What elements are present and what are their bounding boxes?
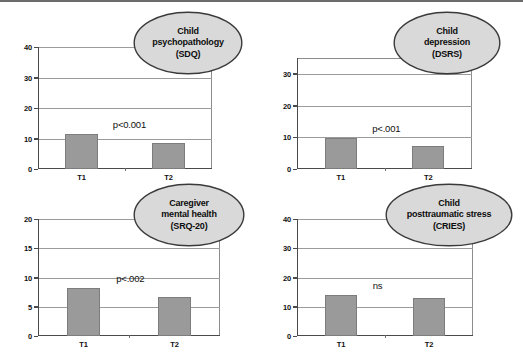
y-axis-tick-mark (293, 277, 297, 279)
bar-t2 (413, 298, 446, 336)
callout-title-line: (CRIES) (407, 221, 492, 233)
callout-title-line: mental health (161, 209, 216, 221)
callout-title-line: posttraumatic stress (407, 209, 492, 221)
callout-title-text: Childdepression(DSRS) (420, 26, 474, 61)
y-axis-tick-label: 20 (269, 274, 291, 283)
callout-title-line: (DSRS) (424, 49, 470, 61)
callout-title-text: Childpsychopathology(SDQ) (148, 26, 228, 61)
figure-canvas: 010203040T1T2p<0.001Childpsychopathology… (0, 0, 523, 358)
callout-title-line: depression (424, 37, 470, 49)
callout-title-line: Child (407, 198, 492, 210)
x-axis-centre-tick (385, 335, 386, 338)
callout-title-line: Caregiver (161, 198, 216, 210)
callout-title-text: Childposttraumatic stress(CRIES) (403, 198, 496, 233)
callout-title-line: psychopathology (152, 37, 224, 49)
y-axis-tick-mark (293, 219, 297, 221)
callout-title-line: Child (152, 26, 224, 38)
gridline-20 (298, 278, 473, 279)
callout-title-text: Caregivermental health(SRQ-20) (157, 198, 220, 233)
y-axis-tick-mark (293, 306, 297, 308)
gridline-30 (298, 248, 473, 249)
callout-title-line: Child (424, 26, 470, 38)
y-axis-tick-mark (293, 336, 297, 338)
y-axis-tick-label: 30 (269, 244, 291, 253)
y-axis-tick-label: 10 (269, 303, 291, 312)
y-axis-tick-label: 40 (269, 215, 291, 224)
callout-child-posttraumatic-stress: Childposttraumatic stress(CRIES) (385, 183, 513, 247)
y-axis-tick-mark (293, 248, 297, 250)
callout-title-line: (SRQ-20) (161, 221, 216, 233)
y-axis-tick-label: 0 (269, 332, 291, 341)
x-axis-tick-label: T2 (409, 340, 449, 349)
callout-title-line: (SDQ) (152, 49, 224, 61)
x-axis-tick-label: T1 (321, 340, 361, 349)
significance-annotation: ns (373, 280, 383, 291)
bar-t1 (325, 295, 358, 336)
